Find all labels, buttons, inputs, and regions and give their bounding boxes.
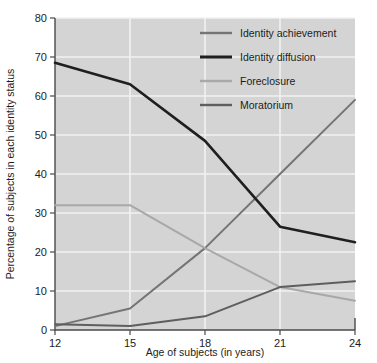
y-tick-label: 50 [35, 129, 47, 141]
x-tick-label: 12 [49, 337, 61, 349]
x-tick-label: 15 [124, 337, 136, 349]
y-axis-title: Percentage of subjects in each identity … [4, 69, 16, 280]
y-tick-label: 80 [35, 12, 47, 24]
y-axis-ticks: 01020304050607080 [35, 12, 55, 336]
x-tick-label: 21 [274, 337, 286, 349]
legend-label: Foreclosure [240, 75, 296, 87]
y-tick-label: 20 [35, 246, 47, 258]
x-axis-title: Age of subjects (in years) [146, 346, 264, 358]
y-tick-label: 60 [35, 90, 47, 102]
chart-figure: 01020304050607080 1215182124 Identity ac… [0, 0, 377, 363]
legend-label: Identity achievement [240, 27, 336, 39]
y-tick-label: 0 [41, 324, 47, 336]
y-tick-label: 40 [35, 168, 47, 180]
y-tick-label: 10 [35, 285, 47, 297]
y-tick-label: 70 [35, 51, 47, 63]
line-chart: 01020304050607080 1215182124 Identity ac… [0, 0, 377, 363]
legend-label: Identity diffusion [240, 51, 316, 63]
x-tick-label: 24 [349, 337, 361, 349]
y-tick-label: 30 [35, 207, 47, 219]
legend-label: Moratorium [240, 99, 293, 111]
